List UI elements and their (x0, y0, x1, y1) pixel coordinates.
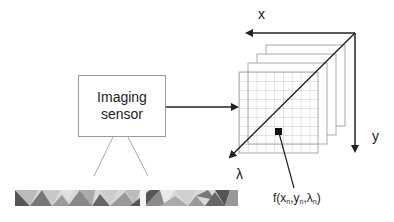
lambda-axis-label: λ (236, 166, 243, 182)
ground-scene-strip (15, 190, 238, 206)
sensor-field-of-view (94, 137, 148, 176)
sensor-label-line2: sensor (97, 106, 147, 123)
pixel-value-label: f(xn,yn,λn) (273, 191, 321, 205)
imaging-sensor-box: Imaging sensor (78, 75, 166, 137)
spectral-bands (239, 45, 345, 153)
x-axis-label: x (258, 6, 265, 22)
pixel-marker (275, 128, 282, 135)
sensor-label-line1: Imaging (97, 89, 147, 106)
front-band-grid (239, 72, 318, 153)
y-axis-label: y (372, 128, 379, 144)
hyperspectral-diagram (0, 0, 394, 222)
